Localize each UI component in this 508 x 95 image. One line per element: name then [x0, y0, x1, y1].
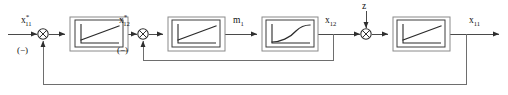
label-output-x11: x11 — [469, 15, 480, 27]
label-m1: m1 — [233, 15, 244, 27]
svg-text:x*11: x*11 — [21, 13, 32, 27]
block-diagram-canvas: x*11 x*12 m1 x12 z — [0, 0, 508, 95]
sum1-sign-label: (−) — [17, 45, 28, 55]
block-3[interactable] — [262, 17, 318, 51]
label-x12-subscript: 12 — [330, 20, 337, 27]
label-input-subscript: 11 — [25, 20, 31, 27]
block-diagram-svg: x*11 x*12 m1 x12 z — [0, 0, 508, 95]
label-input-x11-star: x*11 — [21, 13, 32, 27]
label-x12star-subscript: 12 — [123, 20, 130, 27]
label-z: z — [362, 1, 366, 11]
summing-junction-3[interactable] — [361, 29, 371, 39]
block-2[interactable] — [168, 17, 225, 51]
svg-text:z: z — [362, 1, 366, 11]
svg-text:x*12: x*12 — [119, 13, 130, 27]
summing-junction-1[interactable] — [38, 29, 48, 39]
label-x12: x12 — [325, 15, 336, 27]
label-output-subscript: 11 — [474, 20, 480, 27]
svg-text:x11: x11 — [469, 15, 480, 27]
sum2-sign-label: (−) — [117, 45, 128, 55]
svg-text:x12: x12 — [325, 15, 336, 27]
label-z-base: z — [362, 1, 366, 11]
block-4[interactable] — [393, 17, 450, 51]
svg-text:m1: m1 — [233, 15, 244, 27]
label-m1-subscript: 1 — [240, 20, 243, 27]
summing-junction-2[interactable] — [138, 29, 148, 39]
label-x12-star: x*12 — [119, 13, 130, 27]
